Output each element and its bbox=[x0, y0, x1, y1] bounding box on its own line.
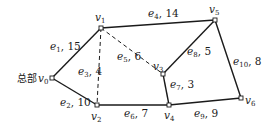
node-label-v4: v4 bbox=[164, 109, 175, 123]
edge-e9 bbox=[169, 98, 241, 105]
edge-label-e6: e6, 7 bbox=[124, 107, 148, 121]
graph-svg: 总部 v0 v1 v2 v3 v4 v5 v6 e1, 15 e2, 10 e3… bbox=[0, 0, 269, 125]
node-label-v5: v5 bbox=[209, 3, 219, 17]
node-v6 bbox=[239, 96, 243, 100]
edge-label-e9: e9, 9 bbox=[194, 107, 218, 121]
edge-label-e4: e4, 14 bbox=[148, 7, 179, 21]
graph-diagram: 总部 v0 v1 v2 v3 v4 v5 v6 e1, 15 e2, 10 e3… bbox=[0, 0, 269, 125]
node-v1 bbox=[99, 26, 103, 30]
edge-label-e2: e2, 10 bbox=[60, 96, 91, 110]
edge-e4 bbox=[101, 20, 215, 28]
edge-label-e1: e1, 15 bbox=[50, 40, 81, 54]
node-v5 bbox=[213, 18, 217, 22]
headquarters-label: 总部 bbox=[17, 72, 37, 84]
node-label-v2: v2 bbox=[91, 110, 101, 124]
edge-label-e3: e3, 4 bbox=[78, 65, 102, 79]
node-v4 bbox=[167, 103, 171, 107]
node-label-v3: v3 bbox=[153, 60, 163, 74]
edge-e7 bbox=[163, 74, 169, 105]
node-v2 bbox=[95, 103, 99, 107]
node-label-v0: v0 bbox=[38, 72, 48, 86]
node-label-v6: v6 bbox=[245, 94, 256, 108]
edge-label-e10: e10, 8 bbox=[233, 55, 262, 69]
edge-label-e7: e7, 3 bbox=[170, 78, 194, 92]
edge-label-e8: e8, 5 bbox=[187, 45, 211, 59]
edge-label-e5: e5, 6 bbox=[117, 50, 141, 64]
node-label-v1: v1 bbox=[95, 11, 105, 25]
node-v0 bbox=[50, 76, 54, 80]
